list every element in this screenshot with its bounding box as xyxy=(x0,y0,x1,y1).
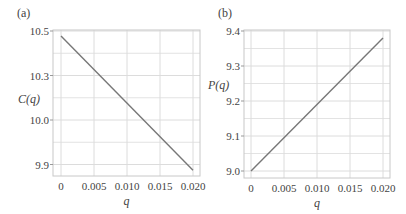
x-tick-label: 0.010 xyxy=(305,182,330,194)
y-tick-label: 10.5 xyxy=(30,25,50,37)
y-tick-label: 9.1 xyxy=(226,130,240,142)
panel-label: (b) xyxy=(218,6,232,20)
y-tick-label: 10.3 xyxy=(30,70,50,82)
chart-figure: 10.510.310.09.900.0050.0100.0150.020qC(q… xyxy=(0,0,406,214)
y-axis-label: P(q) xyxy=(207,78,229,92)
y-tick-label: 9.3 xyxy=(226,60,240,72)
y-tick-label: 9.0 xyxy=(226,165,240,177)
y-tick-label: 9.9 xyxy=(35,159,49,171)
x-tick-label: 0.005 xyxy=(82,180,107,192)
x-tick-label: 0.020 xyxy=(371,182,396,194)
y-tick-label: 9.2 xyxy=(226,95,240,107)
x-axis-label: q xyxy=(124,194,130,208)
y-axis-label: C(q) xyxy=(18,92,40,106)
x-axis-label: q xyxy=(314,196,320,210)
panel-label: (a) xyxy=(17,6,30,20)
x-tick-label: 0 xyxy=(248,182,254,194)
x-tick-label: 0.015 xyxy=(148,180,173,192)
panel-b: 9.49.39.29.19.000.0050.0100.0150.020qP(q… xyxy=(207,6,396,210)
x-tick-label: 0.005 xyxy=(272,182,297,194)
x-tick-label: 0.020 xyxy=(181,180,206,192)
x-tick-label: 0.010 xyxy=(115,180,140,192)
y-tick-label: 9.4 xyxy=(226,25,240,37)
x-tick-label: 0 xyxy=(58,180,64,192)
x-tick-label: 0.015 xyxy=(338,182,363,194)
y-tick-label: 10.0 xyxy=(30,114,50,126)
panel-a: 10.510.310.09.900.0050.0100.0150.020qC(q… xyxy=(17,6,206,208)
